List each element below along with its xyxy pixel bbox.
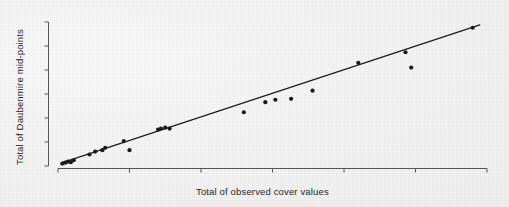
data-point [289,97,293,101]
data-point [122,139,126,143]
data-point [127,148,131,152]
data-point [159,126,163,130]
data-point [403,50,407,54]
scatter-plot-figure: Total of observed cover values Total of … [0,0,509,207]
data-point [409,66,413,70]
y-axis-title: Total of Daubenmire mid-points [14,29,25,165]
data-point [87,152,91,156]
data-point [167,126,171,130]
data-point [242,110,246,114]
data-point [93,150,97,154]
data-point [310,89,314,93]
data-point [471,26,475,30]
data-point [72,158,76,162]
data-point [163,126,167,130]
data-point [263,100,267,104]
data-point [356,61,360,65]
x-axis-title: Total of observed cover values [196,186,329,197]
data-point [273,98,277,102]
plot-canvas [0,0,509,207]
data-point [103,146,107,150]
